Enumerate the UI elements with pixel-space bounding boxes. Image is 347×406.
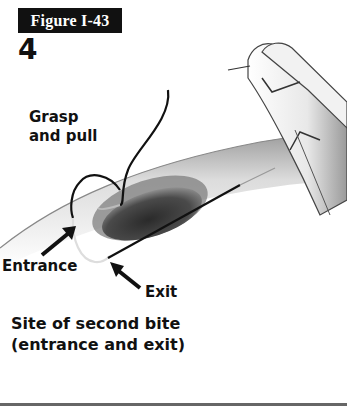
suture-illustration [0, 0, 347, 330]
grasp-label-line2: and pull [29, 127, 97, 146]
step-number: 4 [18, 36, 37, 64]
exit-arrow [110, 262, 140, 288]
caption-line2: (entrance and exit) [11, 334, 185, 355]
entrance-label: Entrance [2, 257, 77, 276]
figure-caption: Site of second bite (entrance and exit) [11, 313, 185, 355]
caption-line1: Site of second bite [11, 313, 185, 334]
grasp-and-pull-label: Grasp and pull [29, 108, 97, 146]
figure-label: Figure I-43 [18, 8, 122, 33]
exit-label: Exit [145, 283, 177, 302]
grasp-label-line1: Grasp [29, 108, 97, 127]
